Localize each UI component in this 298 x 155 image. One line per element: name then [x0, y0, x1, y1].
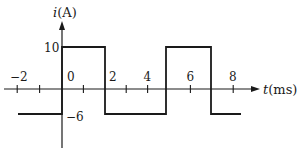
x-axis-label: t(ms) — [263, 82, 297, 97]
y-axis-label: i(A) — [53, 5, 77, 20]
x-label-4: 4 — [144, 70, 152, 84]
x-label-0: 0 — [67, 70, 75, 84]
x-label-2: 2 — [109, 70, 117, 84]
x-axis — [4, 85, 260, 93]
y-label-minus-6: −6 — [66, 110, 84, 124]
x-axis-arrow-icon — [251, 86, 260, 92]
x-label-minus-2: −2 — [10, 70, 28, 84]
x-label-6: 6 — [187, 70, 195, 84]
y-axis-arrow-icon — [59, 21, 65, 30]
y-label-10: 10 — [44, 41, 59, 55]
x-label-8: 8 — [229, 70, 237, 84]
current-waveform-chart: i(A) t(ms) 10 −6 −2 0 2 4 6 8 — [0, 0, 298, 155]
current-waveform-line — [18, 47, 241, 114]
